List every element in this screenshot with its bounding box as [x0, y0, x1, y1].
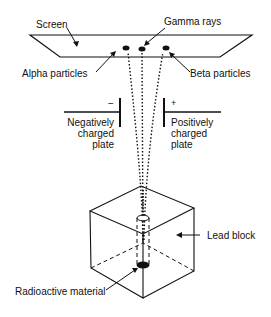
screen-label: Screen	[36, 19, 68, 30]
negative-plate-label: Negatively charged plate	[60, 117, 114, 150]
gamma-spot	[139, 47, 146, 52]
lead-block-label: Lead block	[207, 230, 255, 241]
negative-sign: −	[108, 98, 114, 109]
beta-particles-label: Beta particles	[190, 68, 251, 79]
gamma-rays-label: Gamma rays	[164, 16, 221, 27]
radioactive-material-label: Radioactive material	[15, 286, 106, 297]
lead-block	[90, 186, 194, 298]
positive-plate-label: Positively charged plate	[171, 117, 213, 150]
alpha-path	[128, 52, 143, 240]
beta-path	[144, 52, 163, 240]
radioactive-material	[137, 262, 150, 269]
screen	[30, 35, 252, 57]
alpha-spot	[123, 46, 130, 51]
radiation-deflection-diagram	[0, 0, 271, 317]
alpha-particles-label: Alpha particles	[22, 68, 88, 79]
beta-spot	[163, 46, 170, 51]
positive-sign: +	[171, 98, 176, 109]
bore-hole-top	[137, 215, 149, 221]
